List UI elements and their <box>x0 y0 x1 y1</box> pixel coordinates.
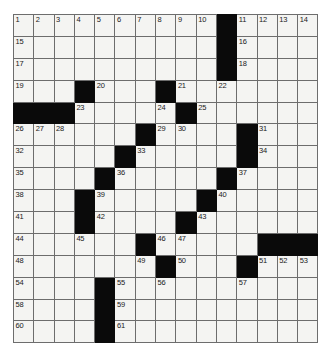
crossword-cell[interactable]: 51 <box>257 255 277 277</box>
crossword-cell[interactable] <box>95 58 115 80</box>
crossword-cell[interactable] <box>95 124 115 146</box>
crossword-cell[interactable] <box>115 233 135 255</box>
crossword-cell[interactable] <box>54 233 74 255</box>
crossword-cell[interactable] <box>277 168 297 190</box>
crossword-cell[interactable] <box>74 299 94 321</box>
crossword-cell[interactable] <box>237 299 257 321</box>
crossword-cell[interactable]: 31 <box>257 124 277 146</box>
crossword-cell[interactable] <box>115 102 135 124</box>
crossword-cell[interactable] <box>156 190 176 212</box>
crossword-cell[interactable]: 18 <box>237 58 257 80</box>
crossword-cell[interactable] <box>298 299 318 321</box>
crossword-cell[interactable] <box>95 146 115 168</box>
crossword-cell[interactable]: 53 <box>298 255 318 277</box>
crossword-cell[interactable] <box>277 212 297 234</box>
crossword-cell[interactable]: 44 <box>14 233 34 255</box>
crossword-cell[interactable]: 57 <box>237 277 257 299</box>
crossword-cell[interactable] <box>115 58 135 80</box>
crossword-cell[interactable] <box>54 321 74 343</box>
crossword-cell[interactable] <box>196 233 216 255</box>
crossword-cell[interactable]: 34 <box>257 146 277 168</box>
crossword-cell[interactable] <box>196 277 216 299</box>
crossword-cell[interactable] <box>34 299 54 321</box>
crossword-cell[interactable] <box>257 277 277 299</box>
crossword-cell[interactable]: 52 <box>277 255 297 277</box>
crossword-cell[interactable]: 7 <box>135 15 155 37</box>
crossword-cell[interactable]: 32 <box>14 146 34 168</box>
crossword-cell[interactable] <box>95 102 115 124</box>
crossword-cell[interactable]: 60 <box>14 321 34 343</box>
crossword-cell[interactable]: 39 <box>95 190 115 212</box>
crossword-cell[interactable]: 13 <box>277 15 297 37</box>
crossword-cell[interactable]: 55 <box>115 277 135 299</box>
crossword-cell[interactable] <box>135 80 155 102</box>
crossword-cell[interactable] <box>176 146 196 168</box>
crossword-cell[interactable] <box>196 80 216 102</box>
crossword-cell[interactable] <box>196 124 216 146</box>
crossword-cell[interactable]: 8 <box>156 15 176 37</box>
crossword-cell[interactable] <box>298 102 318 124</box>
crossword-cell[interactable] <box>74 321 94 343</box>
crossword-cell[interactable] <box>74 255 94 277</box>
crossword-cell[interactable] <box>135 321 155 343</box>
crossword-cell[interactable] <box>176 299 196 321</box>
crossword-cell[interactable] <box>298 212 318 234</box>
crossword-cell[interactable] <box>298 321 318 343</box>
crossword-cell[interactable] <box>115 80 135 102</box>
crossword-cell[interactable]: 47 <box>176 233 196 255</box>
crossword-cell[interactable]: 41 <box>14 212 34 234</box>
crossword-cell[interactable] <box>135 299 155 321</box>
crossword-cell[interactable] <box>216 212 236 234</box>
crossword-cell[interactable]: 3 <box>54 15 74 37</box>
crossword-cell[interactable] <box>257 80 277 102</box>
crossword-cell[interactable] <box>298 80 318 102</box>
crossword-cell[interactable] <box>176 168 196 190</box>
crossword-cell[interactable] <box>74 58 94 80</box>
crossword-cell[interactable]: 6 <box>115 15 135 37</box>
crossword-cell[interactable] <box>156 36 176 58</box>
crossword-cell[interactable]: 45 <box>74 233 94 255</box>
crossword-cell[interactable]: 1 <box>14 15 34 37</box>
crossword-cell[interactable] <box>34 233 54 255</box>
crossword-cell[interactable] <box>156 321 176 343</box>
crossword-cell[interactable]: 38 <box>14 190 34 212</box>
crossword-cell[interactable]: 17 <box>14 58 34 80</box>
crossword-cell[interactable] <box>237 102 257 124</box>
crossword-cell[interactable] <box>216 146 236 168</box>
crossword-cell[interactable]: 48 <box>14 255 34 277</box>
crossword-cell[interactable]: 12 <box>257 15 277 37</box>
crossword-cell[interactable]: 35 <box>14 168 34 190</box>
crossword-cell[interactable] <box>34 277 54 299</box>
crossword-cell[interactable] <box>176 321 196 343</box>
crossword-cell[interactable]: 4 <box>74 15 94 37</box>
crossword-cell[interactable] <box>257 58 277 80</box>
crossword-cell[interactable] <box>216 277 236 299</box>
crossword-cell[interactable] <box>34 255 54 277</box>
crossword-cell[interactable] <box>298 277 318 299</box>
crossword-cell[interactable]: 15 <box>14 36 34 58</box>
crossword-cell[interactable]: 27 <box>34 124 54 146</box>
crossword-cell[interactable]: 40 <box>216 190 236 212</box>
crossword-cell[interactable] <box>54 190 74 212</box>
crossword-cell[interactable] <box>216 124 236 146</box>
crossword-cell[interactable] <box>156 146 176 168</box>
crossword-cell[interactable] <box>277 277 297 299</box>
crossword-cell[interactable] <box>237 233 257 255</box>
crossword-cell[interactable] <box>54 212 74 234</box>
crossword-cell[interactable] <box>156 58 176 80</box>
crossword-cell[interactable] <box>298 58 318 80</box>
crossword-cell[interactable] <box>237 212 257 234</box>
crossword-cell[interactable] <box>54 168 74 190</box>
crossword-cell[interactable] <box>216 299 236 321</box>
crossword-cell[interactable] <box>277 190 297 212</box>
crossword-cell[interactable] <box>277 146 297 168</box>
crossword-cell[interactable] <box>277 58 297 80</box>
crossword-cell[interactable] <box>257 190 277 212</box>
crossword-cell[interactable]: 5 <box>95 15 115 37</box>
crossword-cell[interactable] <box>257 168 277 190</box>
crossword-cell[interactable] <box>176 277 196 299</box>
crossword-cell[interactable] <box>34 80 54 102</box>
crossword-cell[interactable] <box>34 36 54 58</box>
crossword-cell[interactable]: 11 <box>237 15 257 37</box>
crossword-cell[interactable] <box>277 36 297 58</box>
